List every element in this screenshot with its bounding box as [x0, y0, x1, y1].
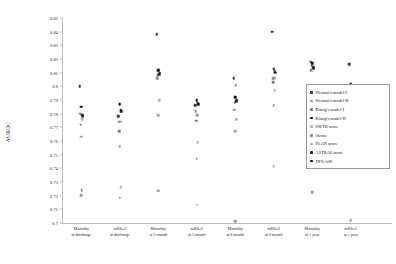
- data-point: [117, 121, 120, 124]
- data-point: [118, 145, 121, 148]
- data-point: [234, 84, 237, 87]
- x-tick-line-2: at 1 year: [305, 232, 320, 238]
- x-axis-tick-label: mRS≥2at 1 year: [344, 226, 358, 237]
- legend-marker-icon: [310, 100, 313, 103]
- x-tick-line-2: at 6 month: [226, 232, 244, 238]
- legend-marker-icon: [310, 91, 313, 94]
- legend-item-label: Weimar's model-I: [316, 90, 347, 95]
- data-point: [80, 106, 83, 109]
- x-tick-line-2: at 6 month: [265, 232, 283, 238]
- data-point: [156, 77, 159, 80]
- data-point: [196, 101, 199, 104]
- data-point: [196, 114, 199, 117]
- data-point: [118, 196, 121, 199]
- x-tick-line-2: at discharge: [110, 232, 130, 238]
- data-point: [232, 77, 235, 80]
- data-point: [79, 123, 82, 126]
- data-point: [196, 141, 199, 144]
- y-axis-tick-mark: [60, 31, 63, 32]
- legend-item-label: iScore: [316, 133, 327, 138]
- legend-item-6[interactable]: iScore: [310, 131, 386, 140]
- x-axis-tick-label: Mortalityat 6 month: [226, 226, 244, 237]
- x-axis-tick-label: Mortalityat 3 month: [149, 226, 167, 237]
- data-point: [271, 77, 274, 80]
- data-point: [157, 69, 160, 72]
- legend-marker-icon: [310, 134, 313, 137]
- y-axis-tick-mark: [60, 72, 63, 73]
- x-axis-line: [62, 223, 392, 224]
- y-axis-tick-mark: [60, 195, 63, 196]
- legend-item-8[interactable]: ASTRAL score: [310, 148, 386, 157]
- x-axis-tick-label: Mortalityat 1 year: [305, 226, 320, 237]
- legend-item-1[interactable]: Weimar's model-I: [310, 88, 386, 97]
- data-point: [311, 191, 314, 194]
- data-point: [157, 190, 160, 193]
- x-tick-line-1: mRS≥2: [344, 226, 358, 232]
- data-point: [234, 96, 237, 99]
- x-tick-line-1: Mortality: [71, 226, 91, 232]
- y-axis-tick-mark: [60, 113, 63, 114]
- data-point: [158, 99, 161, 102]
- legend-item-3[interactable]: König's model-I: [310, 105, 386, 114]
- legend-item-2[interactable]: Weimar's model-II: [310, 97, 386, 106]
- legend-item-9[interactable]: DFS-AIS: [310, 157, 386, 166]
- data-point: [272, 81, 275, 84]
- data-point: [312, 66, 315, 69]
- legend-item-7[interactable]: PLAN score: [310, 140, 386, 149]
- legend-item-label: König's model-II: [316, 116, 346, 121]
- x-axis-tick-label: mRS≥2at discharge: [110, 226, 130, 237]
- legend-item-label: Weimar's model-II: [316, 98, 349, 103]
- x-tick-line-1: Mortality: [305, 226, 320, 232]
- y-axis-tick-mark: [60, 182, 63, 183]
- legend-item-5[interactable]: SWTB score: [310, 122, 386, 131]
- legend: Weimar's model-IWeimar's model-IIKönig's…: [306, 84, 390, 169]
- data-point: [119, 108, 122, 111]
- y-axis-tick-mark: [60, 168, 63, 169]
- y-axis-tick-mark: [60, 223, 63, 224]
- data-point: [78, 85, 81, 88]
- legend-item-label: ASTRAL score: [316, 150, 343, 155]
- data-point: [194, 110, 197, 113]
- x-axis-tick-label: mRS≥2at 6 month: [265, 226, 283, 237]
- y-axis-tick-mark: [60, 18, 63, 19]
- data-point: [157, 114, 160, 117]
- data-point: [235, 100, 238, 103]
- data-point: [273, 70, 276, 73]
- legend-marker-icon: [310, 160, 313, 163]
- data-point: [349, 219, 352, 222]
- data-point: [272, 104, 275, 107]
- data-point: [234, 220, 237, 223]
- data-point: [195, 99, 198, 102]
- x-tick-line-2: at 3 month: [188, 232, 206, 238]
- data-point: [81, 118, 84, 121]
- data-point: [271, 30, 274, 33]
- data-point: [80, 136, 83, 139]
- data-point: [195, 203, 198, 206]
- legend-marker-icon: [310, 108, 313, 111]
- x-axis-tick-label: Mortalityat discharge: [71, 226, 91, 237]
- y-axis-tick-mark: [60, 127, 63, 128]
- data-point: [348, 63, 351, 66]
- y-axis-tick-mark: [60, 209, 63, 210]
- legend-item-4[interactable]: König's model-II: [310, 114, 386, 123]
- data-point: [310, 69, 313, 72]
- y-axis-tick-mark: [60, 45, 63, 46]
- x-tick-line-2: at discharge: [71, 232, 91, 238]
- y-axis-title: AUROC: [5, 122, 11, 142]
- auroc-dot-plot-figure: AUROC 0.850.840.830.820.810.80.790.780.7…: [0, 0, 396, 264]
- data-point: [119, 186, 122, 189]
- legend-item-label: PLAN score: [316, 141, 338, 146]
- data-point: [195, 119, 198, 122]
- y-axis-tick-mark: [60, 59, 63, 60]
- data-point: [195, 157, 198, 160]
- x-tick-line-1: Mortality: [149, 226, 167, 232]
- data-point: [272, 165, 275, 168]
- legend-item-label: SWTB score: [316, 124, 339, 129]
- data-point: [80, 194, 83, 197]
- data-point: [118, 130, 121, 133]
- x-tick-line-2: at 1 year: [344, 232, 358, 238]
- x-tick-line-1: mRS≥2: [188, 226, 206, 232]
- legend-marker-icon: [310, 117, 313, 120]
- data-point: [233, 108, 236, 111]
- data-point: [158, 73, 161, 76]
